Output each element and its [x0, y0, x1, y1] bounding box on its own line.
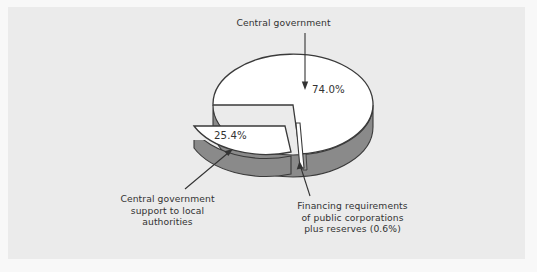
pie-chart-figure: Central government 74.0% 25.4% Central g…: [0, 0, 537, 272]
chart-title: Central government: [15, 17, 537, 29]
caption-local-support: Central government support to local auth…: [60, 193, 275, 228]
caption-local-support-line-3: authorities: [60, 216, 275, 228]
caption-financing-line-1: Financing requirements: [250, 200, 455, 212]
caption-local-support-line-1: Central government: [60, 193, 275, 205]
value-label-central-government: 74.0%: [312, 84, 345, 96]
caption-local-support-line-2: support to local: [60, 205, 275, 217]
value-label-local-support: 25.4%: [214, 130, 247, 142]
caption-financing-requirements: Financing requirements of public corpora…: [250, 200, 455, 235]
caption-financing-line-2: of public corporations: [250, 212, 455, 224]
caption-financing-line-3: plus reserves (0.6%): [250, 223, 455, 235]
